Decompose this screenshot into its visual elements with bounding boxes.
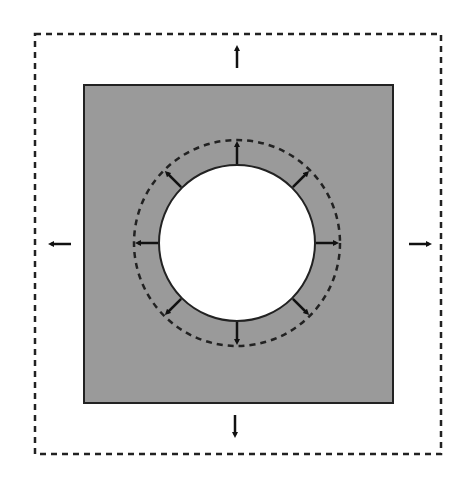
expansion-diagram: [0, 0, 467, 480]
circular-hole: [159, 165, 315, 321]
